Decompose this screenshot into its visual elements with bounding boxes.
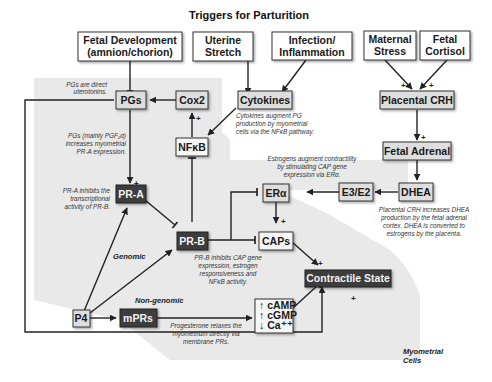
plus-sign: + xyxy=(421,133,426,142)
svg-text:activity of PR-B.: activity of PR-B. xyxy=(65,203,110,211)
svg-text:Fetal Adrenal: Fetal Adrenal xyxy=(384,145,450,157)
svg-text:DHEA: DHEA xyxy=(401,186,431,198)
node-pgs: PGs xyxy=(116,91,146,109)
svg-text:production by the fetal adrena: production by the fetal adrenal xyxy=(380,214,468,222)
plus-sign: + xyxy=(281,217,286,226)
svg-text:responsiveness and: responsiveness and xyxy=(200,270,257,278)
svg-text:transcriptional: transcriptional xyxy=(70,195,110,203)
svg-text:PR-B: PR-B xyxy=(179,235,205,247)
svg-text:membrane PRs.: membrane PRs. xyxy=(183,338,229,345)
edge-stress-crh xyxy=(385,60,412,89)
svg-text:Cortisol: Cortisol xyxy=(425,45,465,57)
svg-text:PGs: PGs xyxy=(120,94,141,106)
svg-text:Stretch: Stretch xyxy=(205,46,241,58)
plus-sign: + xyxy=(429,81,434,90)
note-pra-inhibits: PR-A inhibits the transcriptional activi… xyxy=(63,187,111,211)
svg-text:expression via ERα.: expression via ERα. xyxy=(284,171,341,179)
svg-text:Estrogens augment contractilit: Estrogens augment contractility xyxy=(267,155,357,163)
svg-text:Stress: Stress xyxy=(374,45,406,57)
svg-text:Contractile State: Contractile State xyxy=(306,272,390,284)
node-contractile-state: Contractile State xyxy=(305,270,391,287)
svg-text:Inflammation: Inflammation xyxy=(279,46,344,58)
svg-text:PR-A: PR-A xyxy=(118,188,144,200)
svg-text:by stimulating CAP gene: by stimulating CAP gene xyxy=(277,163,347,171)
node-pr-b: PR-B xyxy=(177,232,208,250)
svg-text:E3/E2: E3/E2 xyxy=(342,186,371,198)
svg-text:Progesterone relaxes the: Progesterone relaxes the xyxy=(170,322,242,330)
trigger-infection: Infection/ Inflammation xyxy=(272,32,352,60)
trigger-fetal-cortisol: Fetal Cortisol xyxy=(420,31,470,60)
node-second-messengers: ↑ cAMP ↑ cGMP ↓ Ca⁺⁺ xyxy=(255,299,297,333)
label-genomic: Genomic xyxy=(113,252,146,261)
svg-text:PGs are direct: PGs are direct xyxy=(66,81,107,88)
svg-text:NFκB: NFκB xyxy=(178,141,206,153)
svg-text:expression, estrogen: expression, estrogen xyxy=(198,262,258,270)
plus-sign: + xyxy=(351,294,356,303)
node-caps: CAPs xyxy=(259,232,293,250)
diagram-title: Triggers for Parturition xyxy=(189,9,309,21)
node-nfkb: NFκB xyxy=(176,138,208,156)
edge-infection-cytokines xyxy=(282,60,306,92)
node-mprs: mPRs xyxy=(120,309,157,327)
node-fetal-adrenal: Fetal Adrenal xyxy=(383,142,451,160)
node-placental-crh: Placental CRH xyxy=(380,91,454,109)
svg-text:cortex. DHEA is converted to: cortex. DHEA is converted to xyxy=(383,222,465,229)
svg-text:Cytokines augment PG: Cytokines augment PG xyxy=(236,112,302,120)
svg-text:production by myometrial: production by myometrial xyxy=(235,120,308,128)
plus-sign: + xyxy=(401,81,406,90)
svg-text:Infection/: Infection/ xyxy=(289,34,336,46)
label-cells: Cells xyxy=(403,356,421,365)
trigger-maternal-stress: Maternal Stress xyxy=(364,31,416,60)
svg-text:Cox2: Cox2 xyxy=(179,94,205,106)
svg-text:estrogens by the placenta.: estrogens by the placenta. xyxy=(387,230,462,238)
parturition-diagram: Triggers for Parturition + + + + xyxy=(0,0,492,382)
svg-text:Maternal: Maternal xyxy=(368,33,411,45)
svg-text:Fetal Development: Fetal Development xyxy=(83,34,177,46)
svg-text:Uterine: Uterine xyxy=(205,34,241,46)
svg-text:CAPs: CAPs xyxy=(262,235,290,247)
node-pr-a: PR-A xyxy=(116,185,146,203)
svg-text:Fetal: Fetal xyxy=(433,33,458,45)
label-myometrial: Myometrial xyxy=(403,347,444,356)
plus-sign: + xyxy=(196,114,201,123)
svg-text:P4: P4 xyxy=(75,312,88,324)
svg-text:NFκB activity.: NFκB activity. xyxy=(209,278,248,286)
svg-text:myometrium directly via: myometrium directly via xyxy=(172,330,240,338)
node-era: ERα xyxy=(263,184,289,202)
node-dhea: DHEA xyxy=(399,183,433,201)
note-cytokines-augment: Cytokines augment PG production by myome… xyxy=(235,112,314,136)
node-e3e2: E3/E2 xyxy=(339,183,373,201)
svg-text:Cytokines: Cytokines xyxy=(240,94,290,106)
svg-text:PR-A inhibits the: PR-A inhibits the xyxy=(63,187,111,194)
svg-text:PR-B inhibits CAP gene: PR-B inhibits CAP gene xyxy=(194,254,262,262)
node-cytokines: Cytokines xyxy=(238,91,292,109)
svg-text:Placental CRH: Placental CRH xyxy=(381,94,453,106)
svg-text:↓ Ca⁺⁺: ↓ Ca⁺⁺ xyxy=(259,319,293,331)
svg-text:increases myometrial: increases myometrial xyxy=(66,140,127,148)
trigger-uterine-stretch: Uterine Stretch xyxy=(193,32,253,61)
node-p4: P4 xyxy=(73,310,90,327)
svg-text:PR-A expression.: PR-A expression. xyxy=(77,148,127,156)
label-non-genomic: Non-genomic xyxy=(135,296,184,305)
svg-text:uterotonins.: uterotonins. xyxy=(74,88,107,95)
node-cox2: Cox2 xyxy=(176,91,208,109)
trigger-fetal-development: Fetal Development (amnion/chorion) xyxy=(78,32,182,61)
svg-text:Placental CRH increases DHEA: Placental CRH increases DHEA xyxy=(379,206,470,213)
svg-text:(amnion/chorion): (amnion/chorion) xyxy=(87,46,173,58)
plus-sign: + xyxy=(318,259,323,268)
svg-text:mPRs: mPRs xyxy=(123,312,153,324)
note-crh-increases: Placental CRH increases DHEA production … xyxy=(379,206,470,238)
svg-text:cells via the NFκB pathway.: cells via the NFκB pathway. xyxy=(236,128,314,136)
svg-text:ERα: ERα xyxy=(265,187,287,199)
svg-text:PGs (mainly PGF₂α): PGs (mainly PGF₂α) xyxy=(68,132,126,140)
